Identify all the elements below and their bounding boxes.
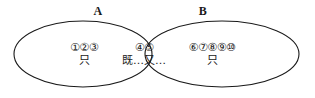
venn-diagram: A B ①②③ 只 ④⑤ 既…又… ⑥⑦⑧⑨⑩ 只 (0, 0, 315, 98)
region-right-only-phrase: 只 (162, 55, 262, 67)
region-right-only: ⑥⑦⑧⑨⑩ 只 (162, 42, 262, 66)
set-label-a: A (88, 5, 108, 17)
region-right-only-numbers: ⑥⑦⑧⑨⑩ (162, 42, 262, 54)
set-label-b: B (193, 5, 213, 17)
